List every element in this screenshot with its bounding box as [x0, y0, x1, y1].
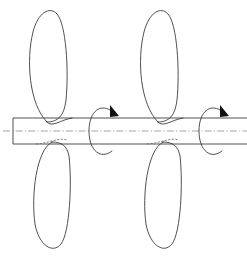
diagram-canvas — [0, 0, 247, 256]
propeller-diagram-figure — [0, 0, 247, 256]
figure-background — [0, 0, 247, 256]
